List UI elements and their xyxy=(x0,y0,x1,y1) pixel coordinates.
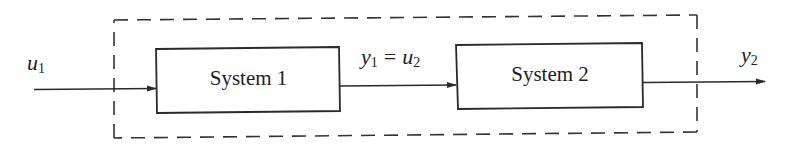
intermediate-right-subscript: 2 xyxy=(413,55,420,70)
output-signal-subscript: 2 xyxy=(751,53,758,68)
intermediate-right-var: u xyxy=(402,44,413,69)
boundary-bottom-edge xyxy=(114,132,697,138)
system-1-label: System 1 xyxy=(157,66,340,91)
intermediate-signal-label: y1=u2 xyxy=(361,44,420,71)
input-signal-var: u xyxy=(27,50,38,75)
intermediate-signal-arrow xyxy=(340,85,456,86)
equals-sign: = xyxy=(378,44,402,69)
input-signal-arrow xyxy=(34,89,156,90)
system-2-label: System 2 xyxy=(457,62,643,87)
input-signal-subscript: 1 xyxy=(38,61,45,76)
output-signal-label: y2 xyxy=(741,42,758,69)
input-signal-label: u1 xyxy=(27,50,45,77)
output-signal-arrow xyxy=(643,82,765,83)
output-signal-var: y xyxy=(741,42,751,67)
boundary-top-edge xyxy=(114,15,697,20)
intermediate-left-subscript: 1 xyxy=(371,55,378,70)
block-diagram xyxy=(0,0,789,144)
intermediate-left-var: y xyxy=(361,44,371,69)
